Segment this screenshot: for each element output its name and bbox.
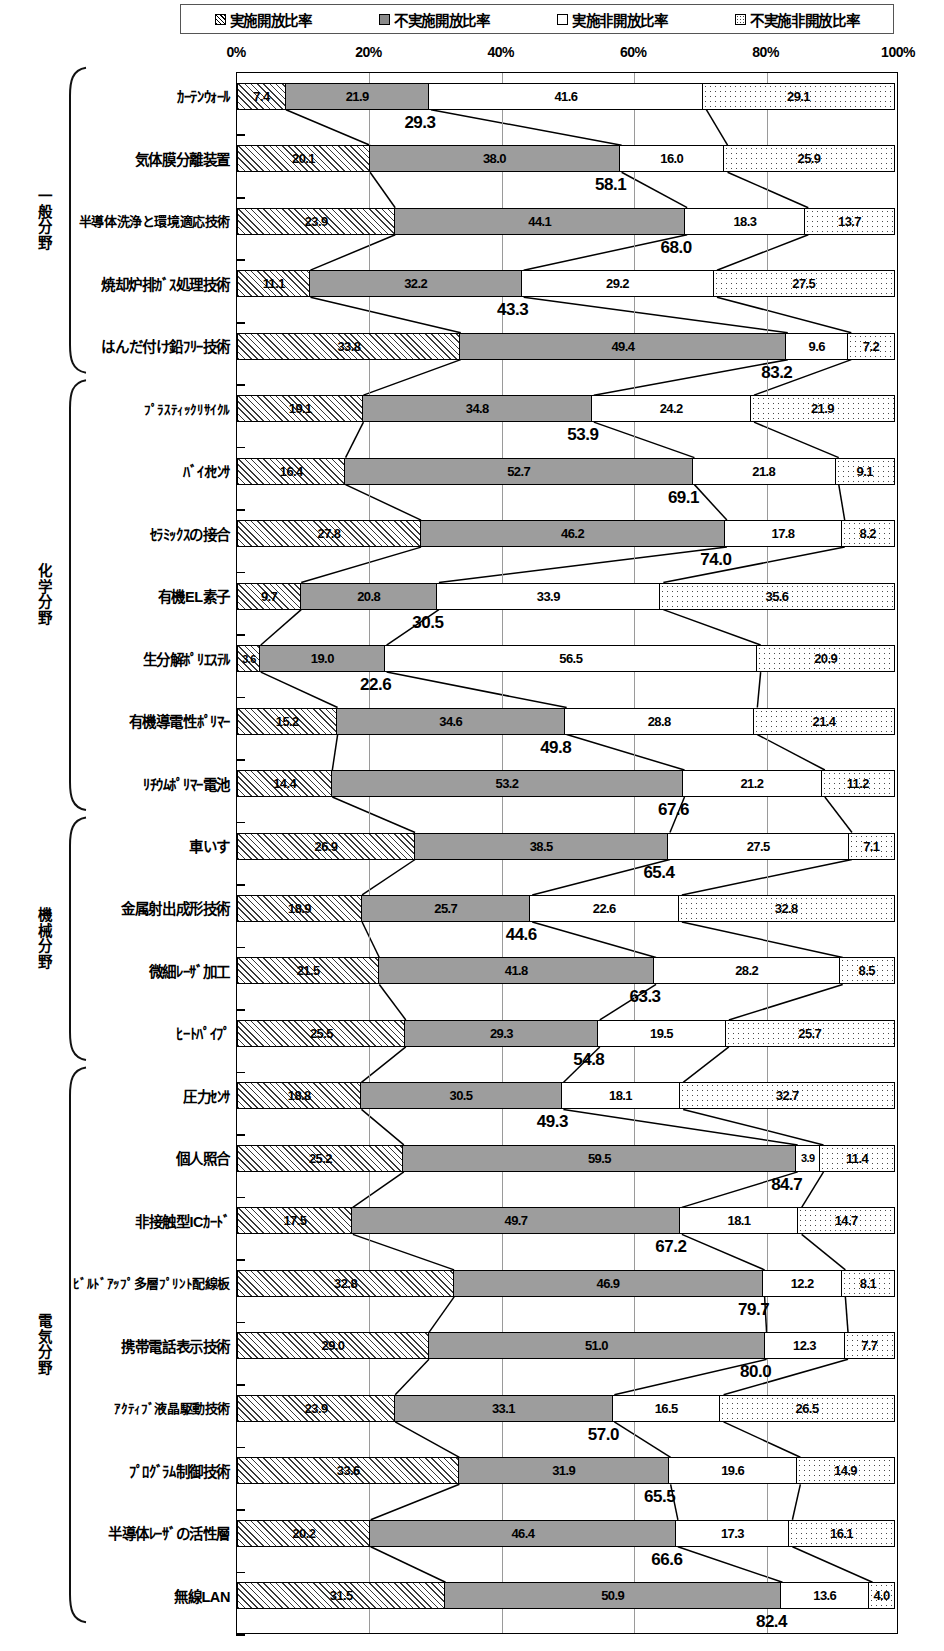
bar-segment[interactable]: 28.2 — [653, 957, 840, 984]
bar-row[interactable]: 19.134.824.221.9 — [237, 395, 897, 422]
bar-segment[interactable]: 18.8 — [237, 1082, 361, 1109]
bar-segment[interactable]: 16.5 — [612, 1395, 721, 1422]
bar-segment[interactable]: 11.2 — [821, 770, 895, 797]
bar-segment[interactable]: 17.3 — [675, 1520, 790, 1547]
bar-segment[interactable]: 29.2 — [521, 270, 714, 297]
bar-segment[interactable]: 24.2 — [591, 395, 751, 422]
bar-segment[interactable]: 32.7 — [679, 1082, 895, 1109]
bar-segment[interactable]: 17.8 — [724, 520, 842, 547]
bar-row[interactable]: 33.631.919.614.9 — [237, 1457, 897, 1484]
bar-segment[interactable]: 8.2 — [841, 520, 895, 547]
bar-segment[interactable]: 20.2 — [237, 1520, 371, 1547]
bar-row[interactable]: 15.234.628.821.4 — [237, 708, 897, 735]
legend-item[interactable]: 実施非開放比率 — [557, 9, 668, 30]
bar-row[interactable]: 9.720.833.935.6 — [237, 583, 897, 610]
bar-segment[interactable]: 41.8 — [378, 957, 655, 984]
bar-segment[interactable]: 14.4 — [237, 770, 332, 797]
bar-segment[interactable]: 7.1 — [848, 833, 895, 860]
bar-segment[interactable]: 9.1 — [835, 458, 895, 485]
bar-segment[interactable]: 29.1 — [702, 83, 895, 110]
bar-row[interactable]: 21.541.828.28.5 — [237, 957, 897, 984]
bar-segment[interactable]: 33.1 — [394, 1395, 613, 1422]
bar-row[interactable]: 32.846.912.28.1 — [237, 1270, 897, 1297]
bar-segment[interactable]: 15.2 — [237, 708, 338, 735]
bar-segment[interactable]: 28.8 — [564, 708, 755, 735]
bar-segment[interactable]: 29.0 — [237, 1332, 429, 1359]
bar-segment[interactable]: 25.5 — [237, 1020, 406, 1047]
bar-segment[interactable]: 12.2 — [762, 1270, 843, 1297]
bar-segment[interactable]: 26.5 — [719, 1395, 894, 1422]
bar-segment[interactable]: 21.4 — [753, 708, 895, 735]
bar-segment[interactable]: 25.7 — [361, 895, 531, 922]
bar-segment[interactable]: 25.2 — [237, 1145, 404, 1172]
bar-row[interactable]: 20.246.417.316.1 — [237, 1520, 897, 1547]
bar-segment[interactable]: 14.9 — [796, 1457, 895, 1484]
bar-segment[interactable]: 4.0 — [868, 1582, 894, 1609]
bar-segment[interactable]: 51.0 — [428, 1332, 766, 1359]
bar-segment[interactable]: 21.9 — [285, 83, 430, 110]
bar-segment[interactable]: 8.1 — [841, 1270, 895, 1297]
bar-segment[interactable]: 9.6 — [785, 333, 849, 360]
bar-segment[interactable]: 19.5 — [597, 1020, 726, 1047]
bar-segment[interactable]: 56.5 — [384, 645, 758, 672]
bar-segment[interactable]: 18.1 — [561, 1082, 681, 1109]
bar-segment[interactable]: 23.9 — [237, 208, 395, 235]
bar-segment[interactable]: 22.6 — [529, 895, 679, 922]
bar-row[interactable]: 11.132.229.227.5 — [237, 270, 897, 297]
bar-segment[interactable]: 21.9 — [750, 395, 895, 422]
bar-row[interactable]: 23.933.116.526.5 — [237, 1395, 897, 1422]
bar-segment[interactable]: 30.5 — [360, 1082, 562, 1109]
legend-item[interactable]: 実施開放比率 — [215, 9, 312, 30]
bar-segment[interactable]: 46.9 — [453, 1270, 763, 1297]
bar-row[interactable]: 27.846.217.88.2 — [237, 520, 897, 547]
bar-row[interactable]: 17.549.718.114.7 — [237, 1207, 897, 1234]
bar-row[interactable]: 23.944.118.313.7 — [237, 208, 897, 235]
bar-segment[interactable]: 19.0 — [259, 645, 385, 672]
bar-segment[interactable]: 18.1 — [679, 1207, 799, 1234]
bar-segment[interactable]: 34.6 — [336, 708, 565, 735]
bar-row[interactable]: 26.938.527.57.1 — [237, 833, 897, 860]
bar-segment[interactable]: 14.7 — [797, 1207, 894, 1234]
bar-segment[interactable]: 7.2 — [847, 333, 895, 360]
bar-row[interactable]: 25.529.319.525.7 — [237, 1020, 897, 1047]
bar-segment[interactable]: 13.6 — [780, 1582, 870, 1609]
bar-segment[interactable]: 3.9 — [795, 1145, 821, 1172]
bar-segment[interactable]: 16.0 — [619, 145, 725, 172]
bar-segment[interactable]: 27.5 — [667, 833, 849, 860]
bar-row[interactable]: 18.925.722.632.8 — [237, 895, 897, 922]
bar-segment[interactable]: 27.5 — [713, 270, 895, 297]
bar-segment[interactable]: 32.8 — [678, 895, 895, 922]
bar-row[interactable]: 18.830.518.132.7 — [237, 1082, 897, 1109]
bar-segment[interactable]: 59.5 — [402, 1145, 796, 1172]
bar-segment[interactable]: 16.4 — [237, 458, 346, 485]
bar-row[interactable]: 25.259.53.911.4 — [237, 1145, 897, 1172]
bar-segment[interactable]: 21.5 — [237, 957, 379, 984]
bar-segment[interactable]: 20.8 — [300, 583, 438, 610]
legend-item[interactable]: 不実施開放比率 — [379, 9, 490, 30]
bar-segment[interactable]: 38.5 — [414, 833, 669, 860]
legend-item[interactable]: 不実施非開放比率 — [735, 9, 860, 30]
bar-segment[interactable]: 9.7 — [237, 583, 301, 610]
bar-segment[interactable]: 23.9 — [237, 1395, 395, 1422]
bar-segment[interactable]: 33.6 — [237, 1457, 459, 1484]
bar-row[interactable]: 7.421.941.629.1 — [237, 83, 897, 110]
bar-segment[interactable]: 33.9 — [436, 583, 660, 610]
bar-segment[interactable]: 19.6 — [668, 1457, 798, 1484]
bar-segment[interactable]: 20.1 — [237, 145, 370, 172]
bar-segment[interactable]: 44.1 — [394, 208, 686, 235]
bar-segment[interactable]: 12.3 — [764, 1332, 845, 1359]
bar-segment[interactable]: 50.9 — [444, 1582, 781, 1609]
bar-segment[interactable]: 34.8 — [362, 395, 592, 422]
bar-segment[interactable]: 27.8 — [237, 520, 421, 547]
bar-segment[interactable]: 49.7 — [351, 1207, 680, 1234]
bar-row[interactable]: 14.453.221.211.2 — [237, 770, 897, 797]
bar-row[interactable]: 29.051.012.37.7 — [237, 1332, 897, 1359]
bar-segment[interactable]: 46.2 — [420, 520, 726, 547]
bar-segment[interactable]: 31.5 — [237, 1582, 446, 1609]
bar-segment[interactable]: 3.6 — [237, 645, 261, 672]
bar-row[interactable]: 31.550.913.64.0 — [237, 1582, 897, 1609]
bar-segment[interactable]: 25.7 — [725, 1020, 895, 1047]
bar-segment[interactable]: 18.3 — [684, 208, 805, 235]
bar-segment[interactable]: 17.5 — [237, 1207, 353, 1234]
bar-segment[interactable]: 29.3 — [404, 1020, 598, 1047]
